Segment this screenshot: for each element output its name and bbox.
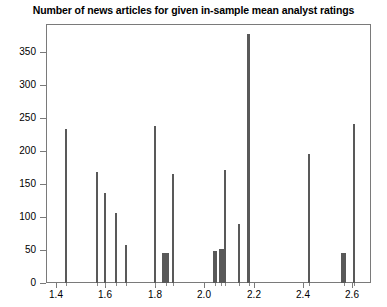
x-axis-tick-label: 2.6: [332, 290, 372, 300]
x-axis-rug-tick: [344, 283, 345, 286]
bar: [341, 253, 346, 283]
x-axis-tick: [352, 283, 353, 288]
x-axis-tick-label: 2.4: [283, 290, 323, 300]
x-axis-tick: [56, 283, 57, 288]
y-axis-tick-label: 150: [0, 179, 36, 189]
x-axis-rug-tick: [354, 283, 355, 286]
bar: [162, 253, 169, 283]
x-axis-tick-label: 2.0: [184, 290, 224, 300]
y-axis-tick-label: 50: [0, 245, 36, 255]
bar: [96, 172, 98, 283]
bar: [247, 34, 250, 283]
x-axis-rug-tick: [116, 283, 117, 286]
x-axis-tick: [254, 283, 255, 288]
plot-area: [46, 24, 371, 283]
x-axis-rug-tick: [215, 283, 216, 286]
bar: [104, 193, 106, 283]
x-axis-tick-label: 2.2: [234, 290, 274, 300]
x-axis-rug-tick: [66, 283, 67, 286]
x-axis-rug-tick: [225, 283, 226, 286]
x-axis-rug-tick: [239, 283, 240, 286]
x-axis-tick: [204, 283, 205, 288]
x-axis-rug-tick: [126, 283, 127, 286]
x-axis-rug-tick: [97, 283, 98, 286]
x-axis-tick-label: 1.8: [135, 290, 175, 300]
y-axis-tick-label: 350: [0, 47, 36, 57]
bar: [172, 174, 174, 283]
x-axis-rug-tick: [221, 283, 222, 286]
chart-figure: Number of news articles for given in-sam…: [0, 0, 387, 307]
x-axis-tick-label: 1.4: [36, 290, 76, 300]
bar: [224, 170, 226, 283]
x-axis-rug-tick: [173, 283, 174, 286]
bar: [353, 124, 355, 283]
bar: [213, 251, 217, 283]
bar: [125, 245, 127, 283]
bar: [238, 224, 240, 283]
bar: [308, 154, 310, 283]
x-axis-tick: [303, 283, 304, 288]
y-axis-tick-label: 200: [0, 146, 36, 156]
x-axis-rug-tick: [309, 283, 310, 286]
bar: [115, 213, 117, 283]
x-axis-rug-tick: [105, 283, 106, 286]
x-axis-tick-label: 1.6: [85, 290, 125, 300]
y-axis-tick-label: 250: [0, 113, 36, 123]
bar: [154, 126, 156, 283]
x-axis-rug-tick: [249, 283, 250, 286]
y-axis-tick-label: 300: [0, 80, 36, 90]
y-axis-tick-label: 100: [0, 212, 36, 222]
y-axis-tick: [40, 283, 46, 284]
x-axis-rug-tick: [166, 283, 167, 286]
y-axis-tick-label: 0: [0, 278, 36, 288]
bar: [65, 129, 67, 283]
x-axis-rug-tick: [155, 283, 156, 286]
